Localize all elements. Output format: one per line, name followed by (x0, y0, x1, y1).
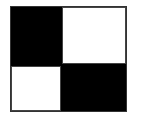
checkerboard-frame (10, 6, 127, 112)
cell-top-left (11, 7, 62, 66)
cell-bottom-right (61, 64, 126, 111)
cell-bottom-left (11, 66, 61, 111)
cell-top-right (62, 7, 126, 64)
